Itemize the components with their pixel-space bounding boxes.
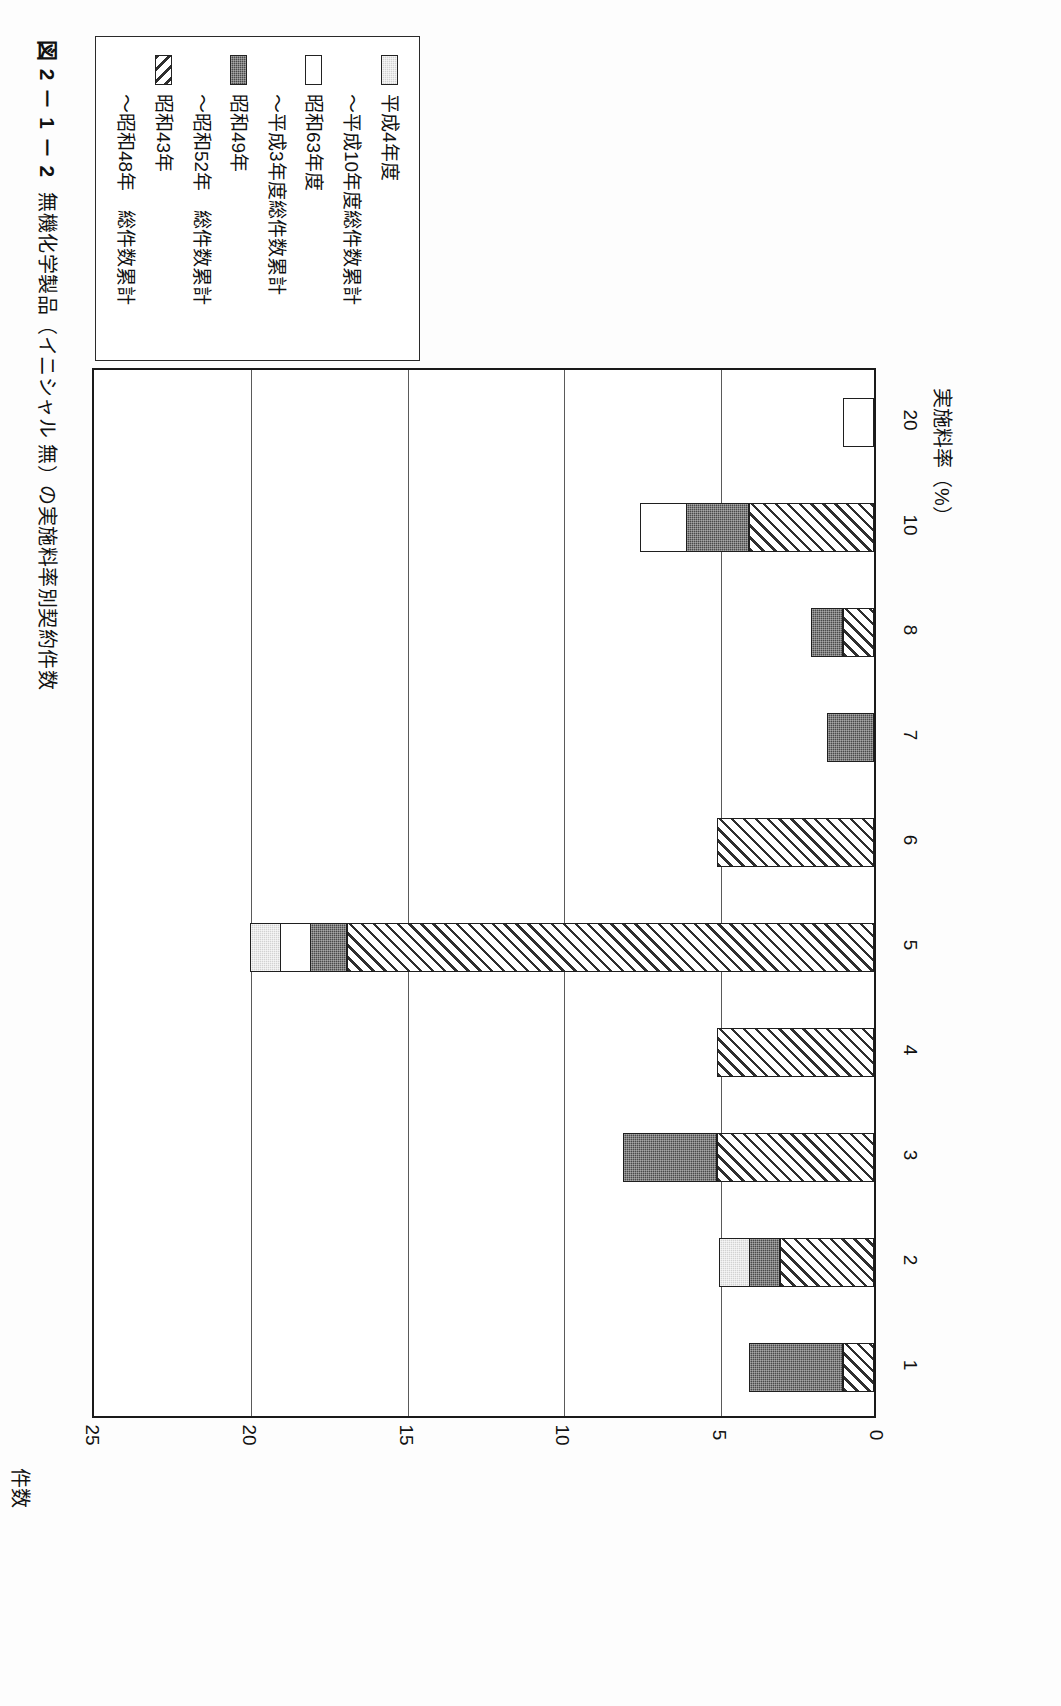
bar-stack-4: [94, 1028, 874, 1076]
legend-item-label: ～平成10年度総件数累計: [342, 94, 361, 305]
bar-stack-3: [94, 1133, 874, 1181]
light-gray-swatch: [381, 55, 398, 85]
category-tick-label: 7: [899, 711, 921, 759]
category-tick-label: 2: [899, 1236, 921, 1284]
bar-stack-20: [94, 398, 874, 446]
legend-item-label: ～平成3年度総件数累計: [267, 94, 286, 295]
dark-swatch: [230, 55, 247, 85]
bar-segment: [719, 1238, 750, 1286]
bar-stack-2: [94, 1238, 874, 1286]
bar-segment: [827, 713, 874, 761]
bar-stack-6: [94, 818, 874, 866]
figure-number: 図 2 － 1 － 2: [34, 40, 64, 178]
legend-swatch-spacer: [117, 55, 134, 85]
bar-segment: [749, 1238, 780, 1286]
category-tick-label: 20: [899, 396, 921, 444]
legend-swatch-spacer: [193, 55, 210, 85]
legend-item: ～平成3年度総件数累計: [259, 55, 295, 350]
chart-plot-area: [92, 368, 876, 1418]
category-tick-label: 10: [899, 501, 921, 549]
bar-segment: [843, 1343, 874, 1391]
category-tick-label: 5: [899, 921, 921, 969]
bar-stack-8: [94, 608, 874, 656]
value-tick-label: 5: [708, 1423, 730, 1447]
category-tick-label: 1: [899, 1341, 921, 1389]
legend-item-label: 昭和43年: [154, 94, 173, 172]
bar-stack-5: [94, 923, 874, 971]
legend-item-label: 昭和63年度: [304, 94, 323, 191]
bar-stack-1: [94, 1343, 874, 1391]
chart-legend: 平成4年度～平成10年度総件数累計昭和63年度～平成3年度総件数累計昭和49年～…: [95, 36, 420, 361]
value-tick-label: 10: [551, 1423, 573, 1447]
bar-segment: [623, 1133, 717, 1181]
figure-page: 図 2 － 1 － 2 無機化学製品（イニシャル 無）の実施料率別契約件数 平成…: [0, 0, 1061, 1706]
value-tick-label: 25: [81, 1423, 103, 1447]
category-tick-label: 8: [899, 606, 921, 654]
bar-segment: [310, 923, 348, 971]
figure-title: 無機化学製品（イニシャル 無）の実施料率別契約件数: [35, 192, 64, 690]
value-axis-title: 件数: [10, 1468, 30, 1508]
hatched-swatch: [155, 55, 172, 85]
bar-segment: [717, 1028, 874, 1076]
value-axis-ticks: 2520151050: [92, 1424, 876, 1464]
legend-item: ～平成10年度総件数累計: [334, 55, 370, 350]
bar-segment: [780, 1238, 874, 1286]
legend-item-label: 昭和49年: [229, 94, 248, 172]
bar-segment: [811, 608, 842, 656]
category-tick-label: 3: [899, 1131, 921, 1179]
bar-segment: [717, 818, 874, 866]
legend-swatch-spacer: [268, 55, 285, 85]
bar-segment: [640, 503, 687, 551]
bar-stack-7: [94, 713, 874, 761]
bar-segment: [843, 398, 874, 446]
legend-items: 平成4年度～平成10年度総件数累計昭和63年度～平成3年度総件数累計昭和49年～…: [96, 37, 421, 362]
legend-item-label: ～昭和52年 総件数累計: [192, 94, 211, 305]
legend-swatch-spacer: [343, 55, 360, 85]
legend-item: 昭和63年度: [296, 55, 332, 350]
category-tick-label: 6: [899, 816, 921, 864]
category-tick-label: 4: [899, 1026, 921, 1074]
legend-item-label: 平成4年度: [380, 94, 399, 181]
white-swatch: [305, 55, 322, 85]
legend-item: ～昭和48年 総件数累計: [108, 55, 144, 350]
bar-segment: [347, 923, 874, 971]
bar-segment: [686, 503, 749, 551]
legend-item: 平成4年度: [371, 55, 407, 350]
legend-item: 昭和43年: [146, 55, 182, 350]
bar-segment: [250, 923, 281, 971]
legend-item: 昭和49年: [221, 55, 257, 350]
bar-segment: [749, 1343, 843, 1391]
value-tick-label: 20: [238, 1423, 260, 1447]
bar-segment: [749, 503, 874, 551]
value-tick-label: 0: [865, 1423, 887, 1447]
bar-segment: [717, 1133, 874, 1181]
value-tick-label: 15: [395, 1423, 417, 1447]
figure-caption: 図 2 － 1 － 2 無機化学製品（イニシャル 無）の実施料率別契約件数: [26, 40, 72, 1150]
category-axis-title: 実施料率（%）: [929, 388, 958, 526]
bar-segment: [843, 608, 874, 656]
legend-item: ～昭和52年 総件数累計: [183, 55, 219, 350]
legend-item-label: ～昭和48年 総件数累計: [116, 94, 135, 305]
bar-stack-10: [94, 503, 874, 551]
bar-segment: [280, 923, 311, 971]
